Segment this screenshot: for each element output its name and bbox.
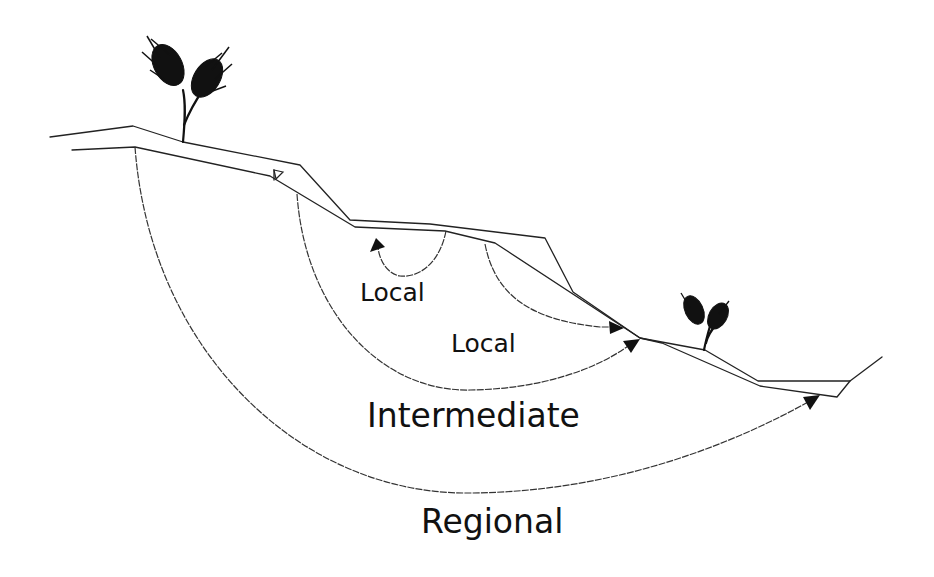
lowland-plant-icon	[680, 293, 733, 350]
groundwater-flow-diagram: Local Local Intermediate Regional	[0, 0, 934, 577]
label-local-1: Local	[360, 278, 425, 307]
water-table-marker-icon	[274, 170, 283, 180]
arrowhead-icon	[370, 238, 385, 252]
label-local-2: Local	[451, 329, 516, 358]
label-regional: Regional	[421, 502, 563, 541]
arrowhead-icon	[623, 339, 640, 353]
hilltop-plant-icon	[142, 36, 232, 142]
water-table	[72, 147, 850, 397]
arrowhead-icon	[803, 395, 820, 410]
local-flow-path-1	[370, 231, 446, 276]
label-intermediate: Intermediate	[367, 396, 580, 435]
